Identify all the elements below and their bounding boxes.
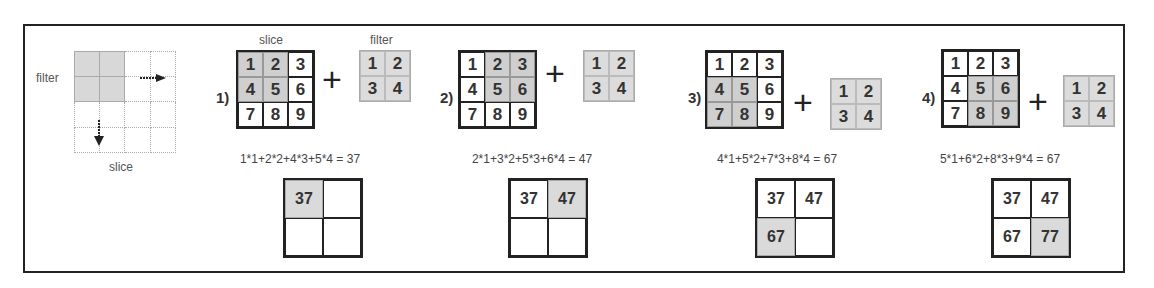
result-cell: 47 [1031,180,1069,218]
result-cell: 37 [757,180,795,218]
step-number: 3) [688,89,701,106]
step-formula: 2*1+3*2+5*3+6*4 = 47 [472,152,592,166]
result-cell [285,218,323,256]
slice-cell: 3 [288,52,313,77]
slice-cell: 5 [263,77,288,102]
slice-cell: 7 [943,101,968,126]
result-grid: 37476777 [991,178,1071,258]
result-cell [510,218,548,256]
slice-cell: 2 [263,52,288,77]
step-formula: 4*1+5*2+7*3+8*4 = 67 [717,152,837,166]
legend-grid [74,51,176,153]
filter-cell: 2 [856,79,881,104]
result-cell: 37 [510,180,548,218]
slice-cell: 9 [288,102,313,127]
result-cell: 47 [795,180,833,218]
filter-grid: 1234 [830,78,882,130]
slice-cell: 3 [757,52,782,77]
slice-cell: 2 [732,52,757,77]
slice-cell: 4 [238,77,263,102]
plus-sign: + [1028,84,1048,118]
slice-cell: 6 [757,77,782,102]
slice-grid: 123456789 [705,50,784,129]
slice-cell: 4 [460,77,485,102]
step-formula: 1*1+2*2+4*3+5*4 = 37 [240,152,360,166]
plus-sign: + [545,56,565,90]
filter-cell: 1 [831,79,856,104]
slice-cell: 8 [263,102,288,127]
slice-cell: 5 [732,77,757,102]
filter-cell: 2 [609,51,634,76]
arrow-down-icon [94,120,104,146]
filter-grid: 1234 [359,50,411,102]
filter-cell: 1 [360,51,385,76]
slice-cell: 7 [707,102,732,127]
slice-cell: 5 [485,77,510,102]
result-cell [548,218,586,256]
filter-cell: 2 [1089,76,1114,101]
filter-grid: 1234 [1063,75,1115,127]
slice-cell: 3 [510,52,535,77]
slice-cell: 8 [485,102,510,127]
result-cell: 37 [285,180,323,218]
slice-cell: 7 [460,102,485,127]
filter-cell: 3 [360,76,385,101]
slice-cell: 8 [732,102,757,127]
slice-cell: 5 [968,76,993,101]
slice-cell: 6 [288,77,313,102]
plus-sign: + [793,85,813,119]
slice-cell: 4 [707,77,732,102]
filter-label: filter [370,33,393,47]
slice-grid: 123456789 [458,50,537,129]
result-cell: 47 [548,180,586,218]
result-cell: 67 [993,218,1031,256]
slice-cell: 8 [968,101,993,126]
slice-cell: 9 [993,101,1018,126]
slice-cell: 4 [943,76,968,101]
filter-cell: 3 [584,76,609,101]
plus-sign: + [322,62,342,96]
arrow-right-icon [140,74,166,82]
slice-label: slice [259,33,283,47]
slice-cell: 3 [993,51,1018,76]
step-number: 1) [216,89,229,106]
filter-cell: 3 [831,104,856,129]
result-grid: 3747 [508,178,588,258]
slice-cell: 2 [968,51,993,76]
step-number: 4) [922,89,935,106]
filter-cell: 2 [385,51,410,76]
result-cell: 67 [757,218,795,256]
filter-cell: 4 [385,76,410,101]
slice-cell: 7 [238,102,263,127]
slice-cell: 1 [238,52,263,77]
filter-cell: 4 [609,76,634,101]
slice-cell: 9 [510,102,535,127]
result-cell: 77 [1031,218,1069,256]
legend-filter-label: filter [36,71,59,85]
filter-cell: 3 [1064,101,1089,126]
result-cell [795,218,833,256]
slice-cell: 6 [993,76,1018,101]
filter-cell: 1 [584,51,609,76]
result-cell [323,218,361,256]
step-number: 2) [440,89,453,106]
result-grid: 37 [283,178,363,258]
filter-cell: 4 [1089,101,1114,126]
filter-grid: 1234 [583,50,635,102]
slice-cell: 9 [757,102,782,127]
filter-cell: 1 [1064,76,1089,101]
slice-cell: 2 [485,52,510,77]
slice-cell: 1 [707,52,732,77]
slice-cell: 6 [510,77,535,102]
slice-cell: 1 [943,51,968,76]
slice-cell: 1 [460,52,485,77]
result-cell: 37 [993,180,1031,218]
slice-grid: 123456789 [941,49,1020,128]
filter-cell: 4 [856,104,881,129]
slice-grid: 123456789 [236,50,315,129]
step-formula: 5*1+6*2+8*3+9*4 = 67 [940,152,1060,166]
result-cell [323,180,361,218]
legend-slice-label: slice [109,160,133,174]
result-grid: 374767 [755,178,835,258]
